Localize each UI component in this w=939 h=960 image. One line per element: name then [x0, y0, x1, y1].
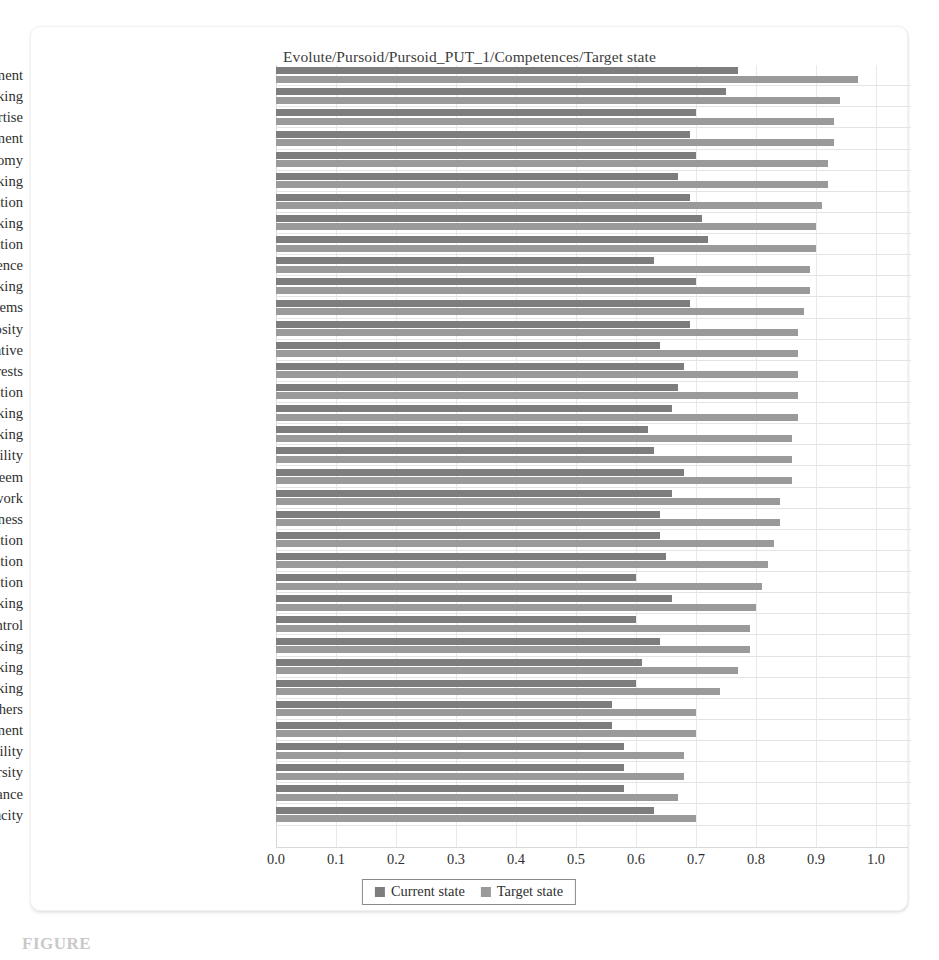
bar-target-state	[276, 160, 828, 167]
chart-title: Evolute/Pursoid/Pursoid_PUT_1/Competence…	[283, 48, 656, 66]
bar-row	[276, 340, 907, 361]
bar-target-state	[276, 118, 834, 125]
category-label: Curiosity	[0, 319, 23, 340]
bar-target-state	[276, 308, 804, 315]
legend-item: Current state	[375, 883, 465, 900]
bar-target-state	[276, 392, 798, 399]
bar-current-state	[276, 743, 624, 750]
bar-target-state	[276, 287, 810, 294]
bar-current-state	[276, 659, 642, 666]
bar-current-state	[276, 680, 636, 687]
bar-target-state	[276, 646, 750, 653]
bar-target-state	[276, 730, 696, 737]
bar-current-state	[276, 807, 654, 814]
bar-target-state	[276, 688, 720, 695]
bar-row	[276, 65, 907, 86]
bar-current-state	[276, 173, 678, 180]
bar-current-state	[276, 616, 636, 623]
bar-row	[276, 424, 907, 445]
bar-row	[276, 445, 907, 466]
x-axis-line	[276, 847, 908, 848]
category-label: Self-development	[0, 65, 23, 86]
bar-current-state	[276, 342, 660, 349]
legend-swatch-icon	[481, 887, 491, 897]
bar-target-state	[276, 223, 816, 230]
bar-row	[276, 551, 907, 572]
category-label: Observation	[0, 572, 23, 593]
bar-row	[276, 488, 907, 509]
category-label: Autonomy	[0, 150, 23, 171]
bar-row	[276, 171, 907, 192]
category-label: Convergent thinking	[0, 678, 23, 699]
x-tick-label: 0.4	[507, 851, 525, 868]
bar-row	[276, 509, 907, 530]
bar-current-state	[276, 553, 666, 560]
bar-current-state	[276, 638, 660, 645]
bar-current-state	[276, 490, 672, 497]
category-label: Self-control	[0, 615, 23, 636]
category-axis-labels: Self-developmentNetworkingOccupational a…	[0, 65, 31, 847]
bar-row	[276, 255, 907, 276]
bar-current-state	[276, 215, 702, 222]
category-label: Conflict management	[0, 720, 23, 741]
category-label: Focus and interests	[0, 361, 23, 382]
bar-row	[276, 657, 907, 678]
bar-row	[276, 699, 907, 720]
bar-row	[276, 530, 907, 551]
bar-target-state	[276, 139, 834, 146]
x-tick-label: 0.6	[627, 851, 645, 868]
category-label: Responsibility	[0, 741, 23, 762]
bar-current-state	[276, 109, 696, 116]
bar-target-state	[276, 329, 798, 336]
x-tick-label: 0.9	[807, 851, 825, 868]
bar-row	[276, 572, 907, 593]
bar-current-state	[276, 152, 696, 159]
bar-row	[276, 361, 907, 382]
bar-target-state	[276, 97, 840, 104]
bar-current-state	[276, 722, 612, 729]
category-label: Trustworthiness	[0, 509, 23, 530]
bar-target-state	[276, 519, 780, 526]
bar-current-state	[276, 574, 636, 581]
bar-row	[276, 107, 907, 128]
bar-target-state	[276, 76, 858, 83]
bar-row	[276, 466, 907, 487]
bar-current-state	[276, 511, 660, 518]
bar-current-state	[276, 595, 672, 602]
bar-current-state	[276, 469, 684, 476]
bar-target-state	[276, 435, 792, 442]
bar-target-state	[276, 773, 684, 780]
bar-row	[276, 128, 907, 149]
bar-target-state	[276, 752, 684, 759]
category-label: Strategic thinking	[0, 213, 23, 234]
x-tick-label: 0.8	[747, 851, 765, 868]
category-label: Absorptive capacity	[0, 805, 23, 826]
bar-current-state	[276, 300, 690, 307]
bar-target-state	[276, 540, 774, 547]
bar-target-state	[276, 350, 798, 357]
category-label: Creative thinking	[0, 636, 23, 657]
bar-current-state	[276, 701, 612, 708]
bar-current-state	[276, 532, 660, 539]
bar-current-state	[276, 785, 624, 792]
bar-row	[276, 783, 907, 804]
bar-target-state	[276, 583, 762, 590]
x-tick-label: 0.5	[567, 851, 585, 868]
bar-row	[276, 382, 907, 403]
category-label: Self-confidence	[0, 255, 23, 276]
bar-current-state	[276, 384, 678, 391]
figure-caption: FIGURE	[22, 934, 91, 954]
plot-area	[276, 65, 907, 847]
bar-current-state	[276, 447, 654, 454]
row-separator	[276, 825, 911, 826]
category-label: Occupational and technical expertise	[0, 107, 23, 128]
category-label: Lateral thinking	[0, 403, 23, 424]
bar-row	[276, 276, 907, 297]
category-label: Change management	[0, 128, 23, 149]
bar-target-state	[276, 371, 798, 378]
category-label: Leveraging diversity	[0, 762, 23, 783]
bar-row	[276, 804, 907, 825]
bar-target-state	[276, 625, 750, 632]
bar-current-state	[276, 363, 684, 370]
bar-current-state	[276, 236, 708, 243]
